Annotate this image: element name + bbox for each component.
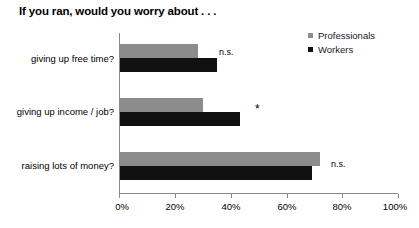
legend-swatch-professionals-icon	[308, 33, 313, 38]
x-tick-label-20: 20%	[165, 201, 184, 212]
significance-label-free-time: n.s.	[219, 47, 234, 57]
x-tick-mark-20	[175, 194, 176, 198]
legend-item-professionals: Professionals	[308, 29, 418, 41]
significance-label-raising-money: n.s.	[331, 159, 346, 169]
x-tick-mark-0	[119, 194, 120, 198]
legend-label-workers: Workers	[318, 44, 353, 55]
y-axis-label-free-time: giving up free time?	[2, 53, 114, 64]
bar-workers-income-job	[120, 112, 240, 126]
bar-professionals-free-time	[120, 44, 198, 58]
bar-workers-free-time	[120, 58, 217, 72]
x-axis-line	[119, 193, 398, 194]
x-tick-mark-80	[342, 194, 343, 198]
x-tick-mark-100	[398, 194, 399, 198]
y-axis-labels: giving up free time? giving up income / …	[0, 0, 114, 228]
bar-workers-raising-money	[120, 166, 312, 180]
x-tick-label-100: 100%	[383, 201, 407, 212]
x-tick-label-0: 0%	[115, 201, 129, 212]
legend-item-workers: Workers	[308, 43, 418, 55]
legend-label-professionals: Professionals	[318, 30, 375, 41]
x-tick-label-80: 80%	[332, 201, 351, 212]
y-axis-label-income-job: giving up income / job?	[2, 106, 114, 117]
significance-label-income-job: *	[255, 105, 260, 114]
legend-swatch-workers-icon	[308, 47, 313, 52]
chart-figure: If you ran, would you worry about . . . …	[0, 0, 419, 228]
x-tick-mark-60	[287, 194, 288, 198]
x-tick-mark-40	[231, 194, 232, 198]
bar-professionals-income-job	[120, 98, 203, 112]
chart-legend: Professionals Workers	[308, 29, 418, 57]
y-axis-label-raising-money: raising lots of money?	[2, 160, 114, 171]
bar-professionals-raising-money	[120, 152, 320, 166]
x-tick-label-40: 40%	[221, 201, 240, 212]
x-tick-label-60: 60%	[277, 201, 296, 212]
